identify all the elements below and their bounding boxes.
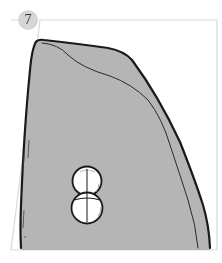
- step-illustration: [0, 0, 222, 263]
- step-number-badge: 7: [18, 10, 38, 30]
